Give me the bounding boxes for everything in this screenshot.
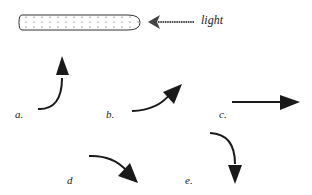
option-d-arrow-icon: [89, 156, 138, 183]
stem-shoot: [19, 15, 140, 30]
option-c-arrow-icon: [232, 95, 300, 110]
option-a-arrow-icon: [38, 56, 69, 109]
option-b-label: b.: [106, 108, 114, 120]
light-arrow-icon: [148, 15, 194, 29]
diagram-canvas: [0, 0, 312, 195]
option-e-label: e.: [185, 174, 193, 186]
option-c-label: c.: [219, 108, 227, 120]
light-label: light: [201, 13, 223, 28]
option-e-arrow-icon: [210, 133, 242, 184]
option-d-label: d: [67, 174, 73, 186]
option-b-arrow-icon: [132, 84, 182, 111]
option-a-label: a.: [15, 108, 23, 120]
